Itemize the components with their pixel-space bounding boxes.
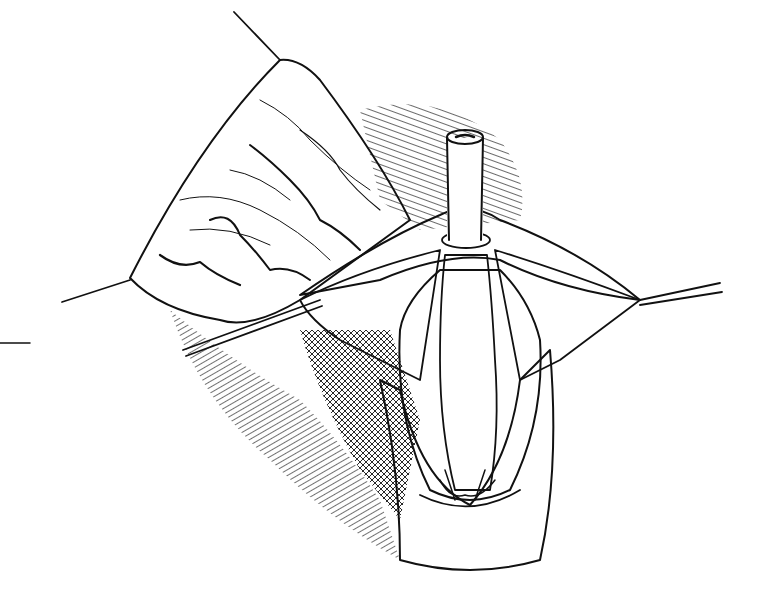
central-catheter xyxy=(442,130,490,248)
surgical-illustration xyxy=(0,0,771,602)
traction-suture-left xyxy=(62,280,130,302)
illustration-canvas xyxy=(0,0,771,602)
traction-suture-right xyxy=(640,283,722,305)
traction-suture-top xyxy=(234,12,280,60)
